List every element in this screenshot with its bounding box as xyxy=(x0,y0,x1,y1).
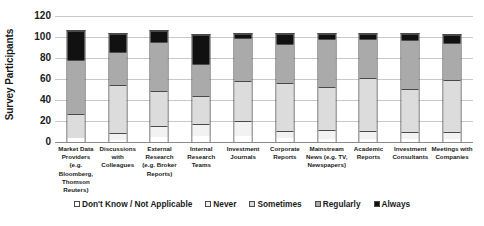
y-axis-tick-label: 120 xyxy=(34,11,51,21)
bar-segment[interactable] xyxy=(402,40,419,89)
bar-segment[interactable] xyxy=(276,131,293,138)
y-axis-tick-label: 100 xyxy=(34,32,51,42)
bar-segment[interactable] xyxy=(444,139,461,142)
bar-segment[interactable] xyxy=(318,130,335,139)
bar-segment[interactable] xyxy=(360,139,377,142)
x-axis-label: Meetings with Companies xyxy=(431,144,473,196)
legend-swatch-icon xyxy=(74,201,80,207)
bar-segment[interactable] xyxy=(151,42,168,91)
bar-segment[interactable] xyxy=(109,85,126,133)
plot-area: 020406080100120 xyxy=(55,16,473,142)
bar-segment[interactable] xyxy=(360,78,377,131)
bar-slot xyxy=(306,16,348,142)
bar-segment[interactable] xyxy=(402,89,419,132)
legend-swatch-icon xyxy=(249,201,255,207)
bar-segment[interactable] xyxy=(151,126,168,136)
bar-segment[interactable] xyxy=(318,87,335,130)
legend-label: Don't Know / Not Applicable xyxy=(82,199,192,209)
x-axis-label: Corporate Reports xyxy=(264,144,306,196)
bar-segment[interactable] xyxy=(235,136,252,142)
bar-segment[interactable] xyxy=(444,35,461,43)
bar-segment[interactable] xyxy=(276,44,293,82)
bar-slot xyxy=(97,16,139,142)
stacked-bar[interactable] xyxy=(275,33,294,142)
bars-layer xyxy=(55,16,473,142)
bar-segment[interactable] xyxy=(318,139,335,142)
x-axis-label: Investment Consultants xyxy=(389,144,431,196)
stacked-bar[interactable] xyxy=(150,30,169,142)
bar-slot xyxy=(348,16,390,142)
y-axis-title: Survey Participants xyxy=(0,0,20,148)
x-axis-label: Academic Reports xyxy=(348,144,390,196)
legend-item[interactable]: Always xyxy=(374,199,411,209)
bar-segment[interactable] xyxy=(67,60,84,114)
bar-segment[interactable] xyxy=(360,39,377,77)
x-axis-label: Mainstream News (e.g. TV, Newspapers) xyxy=(306,144,348,196)
bar-segment[interactable] xyxy=(67,114,84,138)
x-axis-label: Internal Research Teams xyxy=(180,144,222,196)
y-axis-tick-label: 60 xyxy=(40,74,51,84)
stacked-bar[interactable] xyxy=(192,34,211,142)
bar-segment[interactable] xyxy=(67,31,84,60)
bar-slot xyxy=(222,16,264,142)
bar-slot xyxy=(389,16,431,142)
legend-label: Sometimes xyxy=(257,199,301,209)
bar-segment[interactable] xyxy=(444,80,461,132)
stacked-bar[interactable] xyxy=(401,33,420,142)
x-axis-category-labels: Market Data Providers (e.g. Bloomberg, T… xyxy=(55,144,473,196)
x-axis-label: Discussions with Colleagues xyxy=(97,144,139,196)
bar-segment[interactable] xyxy=(109,133,126,140)
bar-segment[interactable] xyxy=(318,39,335,87)
bar-segment[interactable] xyxy=(235,81,252,122)
bar-segment[interactable] xyxy=(402,139,419,142)
bar-slot xyxy=(55,16,97,142)
bar-slot xyxy=(180,16,222,142)
bar-segment[interactable] xyxy=(193,96,210,124)
stacked-bar[interactable] xyxy=(359,33,378,142)
bar-segment[interactable] xyxy=(444,132,461,139)
bar-slot xyxy=(264,16,306,142)
legend-swatch-icon xyxy=(205,201,211,207)
y-axis-tick-label: 80 xyxy=(40,53,51,63)
y-axis-tick-label: 0 xyxy=(45,137,51,147)
bar-segment[interactable] xyxy=(360,131,377,139)
bar-segment[interactable] xyxy=(235,121,252,136)
bar-segment[interactable] xyxy=(235,38,252,81)
legend-label: Never xyxy=(213,199,236,209)
bar-segment[interactable] xyxy=(109,140,126,142)
bar-segment[interactable] xyxy=(402,132,419,139)
stacked-bar[interactable] xyxy=(108,33,127,142)
bar-segment[interactable] xyxy=(193,136,210,142)
legend-item[interactable]: Regularly xyxy=(315,199,361,209)
bar-segment[interactable] xyxy=(109,52,126,85)
bar-segment[interactable] xyxy=(151,31,168,42)
bar-segment[interactable] xyxy=(193,35,210,64)
bar-segment[interactable] xyxy=(276,34,293,44)
x-axis-label: Market Data Providers (e.g. Bloomberg, T… xyxy=(55,144,97,196)
stacked-bar-chart: Survey Participants 020406080100120 Mark… xyxy=(0,0,484,226)
bar-segment[interactable] xyxy=(67,138,84,142)
bar-segment[interactable] xyxy=(109,34,126,52)
stacked-bar[interactable] xyxy=(234,33,253,142)
stacked-bar[interactable] xyxy=(443,34,462,142)
stacked-bar[interactable] xyxy=(66,30,85,142)
y-axis-tick-label: 20 xyxy=(40,116,51,126)
bar-segment[interactable] xyxy=(276,138,293,142)
bar-segment[interactable] xyxy=(151,91,168,126)
bar-segment[interactable] xyxy=(193,64,210,96)
bar-segment[interactable] xyxy=(193,124,210,135)
bar-slot xyxy=(139,16,181,142)
bar-segment[interactable] xyxy=(276,83,293,131)
gridline: 0 xyxy=(55,142,473,143)
legend-item[interactable]: Don't Know / Not Applicable xyxy=(74,199,192,209)
bar-slot xyxy=(431,16,473,142)
x-axis-label: External Research (e.g. Broker Reports) xyxy=(139,144,181,196)
legend-label: Always xyxy=(382,199,411,209)
legend-item[interactable]: Sometimes xyxy=(249,199,301,209)
bar-segment[interactable] xyxy=(444,43,461,79)
bar-segment[interactable] xyxy=(151,137,168,142)
legend-item[interactable]: Never xyxy=(205,199,236,209)
legend-label: Regularly xyxy=(323,199,361,209)
stacked-bar[interactable] xyxy=(317,33,336,142)
x-axis-label: Investment Journals xyxy=(222,144,264,196)
